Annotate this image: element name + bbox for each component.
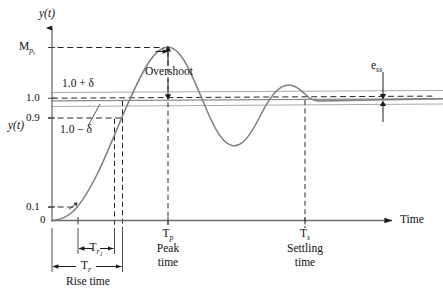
overshoot-label: Overshoot <box>145 66 193 78</box>
tr-base: T <box>81 259 88 271</box>
upper-tolerance-label: 1.0 + δ <box>62 78 94 90</box>
settling-time-marker-label: Ts <box>300 228 310 241</box>
step-response-curve <box>52 47 443 220</box>
y-tick-zero-nine: 0.9 <box>26 112 40 123</box>
peak-time-marker-label: Tp <box>163 228 174 241</box>
rise-time-label: Tr <box>81 260 91 273</box>
tp-sub: p <box>170 233 174 242</box>
steady-state-error-label: ess <box>371 60 382 73</box>
tp-base: T <box>163 227 170 239</box>
y-tick-zero-one: 0.1 <box>26 201 40 212</box>
tr1-sub: r1 <box>97 247 103 256</box>
ess-sub: ss <box>376 65 382 74</box>
peak-time-caption-line2: time <box>158 257 178 269</box>
rise-time-r1-label: Tr1 <box>90 242 103 257</box>
settling-time-caption-line1: Settling <box>287 243 323 255</box>
y-tick-peak-sub: pt <box>29 46 34 55</box>
final-value-dashed-line <box>52 96 434 98</box>
ts-sub: s <box>307 233 310 242</box>
y-tick-peak-value: Mpt <box>19 41 35 56</box>
settling-time-caption-line2: time <box>295 257 315 269</box>
y-tick-peak-base: M <box>19 40 29 52</box>
step-response-figure: y(t) y(t) Time Mpt 1.0 0.9 0.1 0 1.0 + δ… <box>0 0 443 294</box>
tr-sub: r <box>88 265 91 274</box>
y-axis-label-side: y(t) <box>8 120 24 132</box>
y-tick-one: 1.0 <box>26 92 40 103</box>
lower-tolerance-label: 1.0 − δ <box>60 124 92 136</box>
peak-time-caption-line1: Peak <box>157 243 179 255</box>
x-axis-label: Time <box>400 214 424 226</box>
tr1-base: T <box>90 241 97 253</box>
rise-time-caption: Rise time <box>66 276 110 288</box>
steady-state-error-arrow <box>380 72 386 122</box>
figure-canvas <box>0 0 443 294</box>
y-axis-label-top: y(t) <box>39 8 55 20</box>
ts-base: T <box>300 227 307 239</box>
y-tick-origin: 0 <box>40 214 46 225</box>
